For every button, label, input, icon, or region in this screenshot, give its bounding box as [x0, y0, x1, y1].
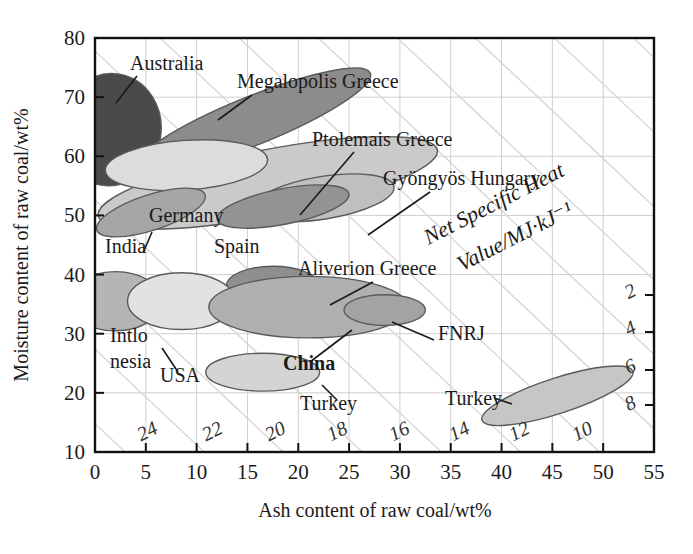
- x-tick-label: 5: [141, 460, 152, 484]
- x-axis-ticks: 0510152025303540455055: [90, 443, 665, 484]
- x-tick-label: 20: [288, 460, 309, 484]
- region-ellipse: [344, 295, 425, 326]
- x-tick-label: 0: [90, 460, 101, 484]
- y-tick-label: 60: [64, 144, 85, 168]
- series-label: Germany: [149, 204, 223, 227]
- x-tick-label: 55: [644, 460, 665, 484]
- y-tick-label: 20: [64, 381, 85, 405]
- x-tick-label: 10: [186, 460, 207, 484]
- iso-value-label: 22: [198, 416, 226, 445]
- series-label: FNRJ: [438, 322, 485, 344]
- series-label: Turkey: [445, 387, 502, 410]
- y-tick-label: 30: [64, 322, 85, 346]
- series-label: nesia: [110, 350, 151, 372]
- y-axis-title: Moisture content of raw coal/wt%: [10, 108, 32, 381]
- iso-value-label: 2: [621, 279, 640, 303]
- iso-value-label: 14: [445, 416, 473, 445]
- y-tick-label: 50: [64, 203, 85, 227]
- iso-value-label: 18: [323, 416, 351, 445]
- y-tick-label: 40: [64, 263, 85, 287]
- iso-labels-right: 2468: [621, 279, 640, 415]
- x-tick-label: 40: [491, 460, 512, 484]
- iso-value-label: 20: [261, 416, 289, 445]
- x-tick-label: 35: [440, 460, 461, 484]
- y-tick-label: 70: [64, 85, 85, 109]
- x-axis-title: Ash content of raw coal/wt%: [258, 499, 491, 521]
- series-label: Spain: [214, 235, 260, 258]
- iso-value-label: 24: [133, 416, 161, 445]
- scatter-plot-svg: 0510152025303540455055 1020304050607080 …: [0, 0, 693, 554]
- x-tick-label: 45: [542, 460, 563, 484]
- series-label: Intlo: [110, 324, 148, 346]
- x-tick-label: 15: [237, 460, 258, 484]
- series-label: USA: [160, 364, 201, 386]
- chart-figure: 0510152025303540455055 1020304050607080 …: [0, 0, 693, 554]
- x-tick-label: 30: [389, 460, 410, 484]
- series-label: Megalopolis Greece: [237, 70, 399, 93]
- series-label: China: [283, 352, 335, 374]
- y-tick-label: 80: [64, 26, 85, 50]
- series-label: Australia: [130, 52, 203, 74]
- iso-value-label: 10: [568, 416, 596, 445]
- series-label: Ptolemais Greece: [312, 128, 453, 150]
- series-label: Aliverion Greece: [298, 257, 436, 279]
- iso-value-label: 4: [621, 316, 640, 340]
- y-tick-label: 10: [64, 440, 85, 464]
- x-tick-label: 50: [593, 460, 614, 484]
- iso-value-label: 8: [621, 391, 640, 415]
- x-tick-label: 25: [339, 460, 360, 484]
- series-label: India: [105, 235, 146, 257]
- series-label: Turkey: [300, 392, 357, 415]
